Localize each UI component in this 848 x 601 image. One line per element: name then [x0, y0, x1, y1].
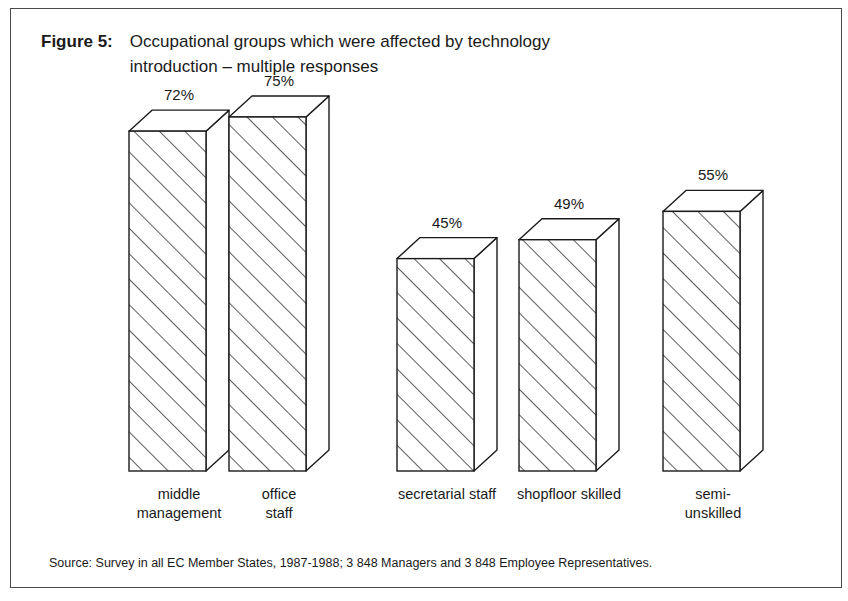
figure-frame: Figure 5: Occupational groups which were… [10, 8, 842, 588]
bar-chart-plot-area: 72%75%45%49%55% middlemanagementofficest… [11, 9, 843, 529]
bar-category-label: semi- [695, 486, 731, 502]
bar-column [663, 190, 763, 471]
bar-value-label: 72% [164, 86, 194, 103]
bar-category-label: office [262, 486, 296, 502]
bar-category-label: shopfloor skilled [517, 486, 621, 502]
source-note: Source: Survey in all EC Member States, … [49, 555, 652, 571]
bar-category-label: secretarial staff [398, 486, 497, 502]
bar-column [519, 219, 619, 471]
figure-title-row: Figure 5: Occupational groups which were… [41, 29, 741, 79]
figure-title-block: Figure 5: Occupational groups which were… [41, 29, 741, 79]
figure-title-line-1: Occupational groups which were affected … [130, 32, 550, 51]
category-labels-group: middlemanagementofficestaffsecretarial s… [137, 486, 742, 521]
bars-group [129, 96, 763, 471]
bar-category-label: management [137, 505, 222, 521]
figure-title-text: Occupational groups which were affected … [130, 29, 550, 79]
bar-column [229, 96, 329, 471]
value-labels-group: 72%75%45%49%55% [164, 72, 728, 231]
bar-value-label: 55% [698, 166, 728, 183]
bar-column [397, 238, 497, 471]
bar-chart-svg: 72%75%45%49%55% middlemanagementofficest… [11, 9, 843, 529]
bar-category-label: middle [158, 486, 201, 502]
bar-value-label: 45% [432, 214, 462, 231]
bar-category-label: staff [265, 505, 293, 521]
bar-value-label: 49% [554, 195, 584, 212]
figure-number-label: Figure 5: [41, 29, 113, 54]
figure-title-line-2: introduction – multiple responses [130, 57, 379, 76]
bar-category-label: unskilled [685, 505, 741, 521]
bar-column [129, 110, 229, 471]
